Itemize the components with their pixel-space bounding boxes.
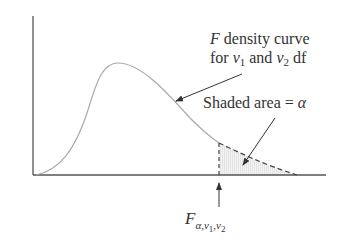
alpha-symbol: α [298,94,306,111]
df-text: df [289,49,306,66]
shaded-tail-area [219,143,297,175]
curve-label-line1: F density curve [210,30,310,48]
and-text: and [245,49,276,66]
f-density-curve [36,63,219,175]
shaded-area-label: Shaded area = α [203,94,306,112]
critical-nu2-index: 2 [221,224,226,234]
critical-nu1-index: 1 [209,224,214,234]
critical-alpha-subscript: α, [195,219,204,231]
shaded-area-arrow [243,118,275,165]
for-text: for [210,49,233,66]
shaded-area-text: Shaded area = [203,94,298,111]
critical-f-variable: F [185,209,195,228]
curve-label-line2: for ν1 and ν2 df [210,49,306,68]
density-curve-text: density curve [220,30,310,47]
critical-value-label: Fα,ν1,ν2 [185,209,225,229]
nu1-symbol: ν [233,49,240,66]
f-variable: F [210,30,220,47]
